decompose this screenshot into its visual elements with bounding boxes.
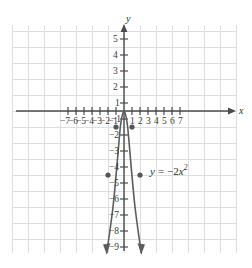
x-tick-label-6: 6 <box>170 117 175 127</box>
y-axis-arrow <box>121 24 128 32</box>
axis-arrowheads <box>121 24 236 114</box>
x-tick-label-3: 3 <box>146 117 151 127</box>
x-axis-label: x <box>239 106 243 116</box>
equation-coefficient: −2 <box>167 165 179 177</box>
equation-lhs: y <box>150 165 155 177</box>
graph-figure: −7 −6 −5 −4 −3 −2 −1 1 2 3 4 5 6 7 5 4 3… <box>0 0 252 268</box>
y-tick-label--6: −6 <box>109 195 119 205</box>
point-2-neg8 <box>137 172 142 177</box>
y-tick-label-3: 3 <box>113 67 118 77</box>
y-tick-label--3: −3 <box>109 147 119 157</box>
coordinate-plane-svg <box>0 0 252 268</box>
curve-right-arrow <box>138 243 145 254</box>
x-tick-label-2: 2 <box>138 117 143 127</box>
equation-exponent: 2 <box>184 163 188 172</box>
y-tick-label-4: 4 <box>113 51 118 61</box>
y-tick-label--4: −4 <box>109 163 119 173</box>
x-tick-label-1: 1 <box>130 117 135 127</box>
y-tick-label--1: −1 <box>111 115 121 125</box>
y-tick-label-1: 1 <box>115 99 120 109</box>
point-neg2-neg8 <box>105 172 110 177</box>
x-tick-label-4: 4 <box>154 117 159 127</box>
y-tick-label--8: −8 <box>109 227 119 237</box>
y-tick-label-2: 2 <box>113 83 118 93</box>
x-axis-arrow <box>228 108 236 115</box>
y-tick-label-5: 5 <box>113 35 118 45</box>
y-tick-label--9: −9 <box>109 243 119 253</box>
y-axis-label: y <box>126 14 130 24</box>
y-tick-label--5: −5 <box>109 179 119 189</box>
x-tick-label-7: 7 <box>178 117 183 127</box>
equation-label: y=−2x2 <box>150 166 187 177</box>
y-tick-label--2: −2 <box>109 131 119 141</box>
equation-operator: = <box>158 165 164 177</box>
y-tick-label--7: −7 <box>109 211 119 221</box>
x-tick-label-5: 5 <box>162 117 167 127</box>
